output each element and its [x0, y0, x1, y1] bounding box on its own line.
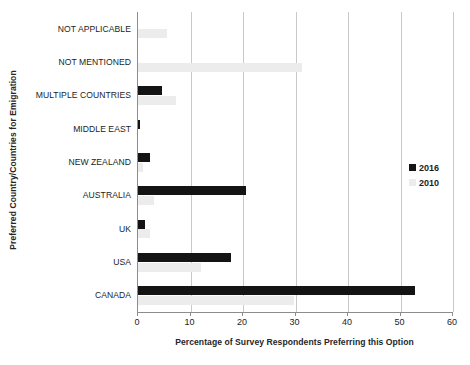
bar-chart: Preferred Country/Countries for Emigrati… [0, 0, 470, 365]
x-axis-tick-label: 30 [289, 317, 299, 327]
bar-2010 [138, 96, 176, 105]
bar-2010 [138, 63, 302, 72]
legend-item-2010[interactable]: 2010 [409, 175, 439, 190]
category-label: CANADA [18, 290, 131, 300]
bar-2016 [138, 186, 246, 195]
bar-2010 [138, 29, 167, 38]
legend-item-2016[interactable]: 2016 [409, 160, 439, 175]
legend-swatch-icon [409, 179, 416, 186]
x-axis-tick [347, 312, 348, 316]
bar-2016 [138, 86, 162, 95]
x-axis-tick [190, 312, 191, 316]
category-label: NOT APPLICABLE [18, 24, 131, 34]
legend-label: 2016 [419, 163, 439, 173]
chart-legend: 20162010 [409, 160, 439, 190]
x-axis-tick [137, 312, 138, 316]
x-axis-tick-label: 40 [342, 317, 352, 327]
gridline [401, 12, 402, 312]
bar-2010 [138, 263, 201, 272]
bar-2010 [138, 229, 150, 238]
x-axis-tick-label: 50 [394, 317, 404, 327]
x-axis-tick-label: 20 [237, 317, 247, 327]
bar-2010 [138, 196, 154, 205]
x-axis-tick [452, 312, 453, 316]
gridline [453, 12, 454, 312]
x-axis-tick-label: 0 [134, 317, 139, 327]
category-label: MULTIPLE COUNTRIES [18, 90, 131, 100]
legend-label: 2010 [419, 178, 439, 188]
category-label: UK [18, 224, 131, 234]
bar-2016 [138, 220, 145, 229]
legend-swatch-icon [409, 164, 416, 171]
bar-2010 [138, 296, 294, 305]
y-axis-title: Preferred Country/Countries for Emigrati… [8, 60, 18, 260]
x-axis-tick [242, 312, 243, 316]
x-axis-tick-label: 10 [184, 317, 194, 327]
category-axis-labels: NOT APPLICABLENOT MENTIONEDMULTIPLE COUN… [18, 12, 131, 312]
x-axis-tick-label: 60 [447, 317, 457, 327]
category-label: MIDDLE EAST [18, 124, 131, 134]
bar-2016 [138, 120, 140, 129]
bar-2016 [138, 153, 150, 162]
gridline [243, 12, 244, 312]
category-label: AUSTRALIA [18, 190, 131, 200]
bar-2016 [138, 253, 231, 262]
category-label: USA [18, 257, 131, 267]
bar-2010 [138, 163, 143, 172]
x-axis-title: Percentage of Survey Respondents Preferr… [137, 337, 452, 347]
gridline [296, 12, 297, 312]
x-axis-tick [295, 312, 296, 316]
gridline [348, 12, 349, 312]
plot-area [137, 12, 452, 312]
category-label: NOT MENTIONED [18, 57, 131, 67]
x-axis-tick [400, 312, 401, 316]
category-label: NEW ZEALAND [18, 157, 131, 167]
bar-2016 [138, 286, 415, 295]
